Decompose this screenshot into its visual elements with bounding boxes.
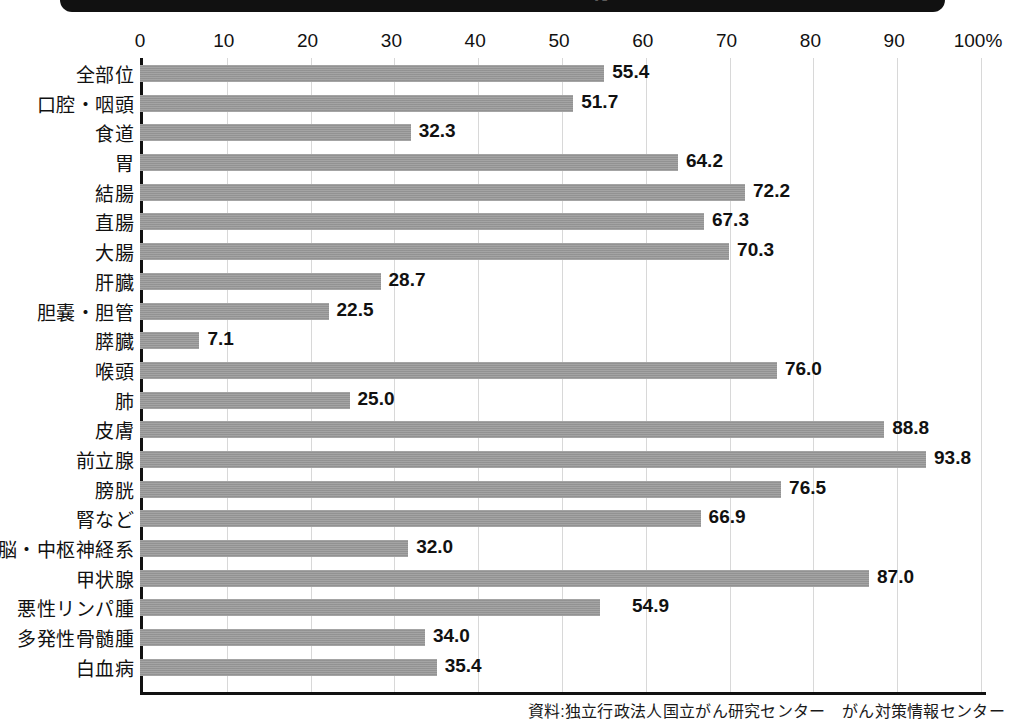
bar-value-12: 88.8 [892,417,929,439]
bar-20 [140,659,437,676]
bar-6 [140,243,729,260]
bar-row: 直腸67.3 [0,206,1013,236]
bar-7 [140,273,381,290]
bar-row: 膵臓7.1 [0,325,1013,355]
bar-value-0: 55.4 [612,61,649,83]
bar-row: 食道32.3 [0,117,1013,147]
x-axis-tick-2: 20 [297,30,318,52]
x-axis-tick-1: 10 [213,30,234,52]
bar-19 [140,629,425,646]
bar-rows: 全部位55.4口腔・咽頭51.7食道32.3胃64.2結腸72.2直腸67.3大… [0,58,1013,681]
bar-row: 口腔・咽頭51.7 [0,88,1013,118]
category-label-4: 結腸 [95,179,134,206]
bar-value-5: 67.3 [712,209,749,231]
bar-13 [140,451,926,468]
bar-12 [140,421,884,438]
category-label-19: 多発性骨髄腫 [17,624,134,651]
category-label-11: 肺 [115,387,135,414]
bar-10 [140,362,777,379]
bar-value-20: 35.4 [445,655,482,677]
bar-value-1: 51.7 [581,91,618,113]
bar-row: 結腸72.2 [0,177,1013,207]
category-label-6: 大腸 [95,238,134,265]
bar-2 [140,124,411,141]
bar-value-13: 93.8 [934,447,971,469]
bar-row: 脳・中枢神経系32.0 [0,533,1013,563]
x-axis-tick-labels: 0102030405060708090100% [0,30,1013,54]
bar-8 [140,303,329,320]
bar-9 [140,332,199,349]
bar-14 [140,481,781,498]
bar-17 [140,570,869,587]
x-axis-tick-9: 90 [884,30,905,52]
category-label-2: 食道 [95,119,134,146]
bar-row: 腎など66.9 [0,503,1013,533]
bar-value-11: 25.0 [358,388,395,410]
bar-row: 多発性骨髄腫34.0 [0,622,1013,652]
bar-row: 皮膚88.8 [0,414,1013,444]
bar-4 [140,184,745,201]
bar-row: 肺25.0 [0,385,1013,415]
bar-value-8: 22.5 [337,299,374,321]
chart-title-banner: 部位別 5年相対生存率 [60,0,945,12]
x-axis-tick-8: 80 [800,30,821,52]
bar-value-14: 76.5 [789,477,826,499]
chart-page: 部位別 5年相対生存率 0102030405060708090100% 全部位5… [0,0,1013,724]
bar-row: 胃64.2 [0,147,1013,177]
bar-row: 全部位55.4 [0,58,1013,88]
bar-value-10: 76.0 [785,358,822,380]
bar-row: 喉頭76.0 [0,355,1013,385]
bar-row: 甲状腺87.0 [0,563,1013,593]
bar-value-2: 32.3 [419,120,456,142]
bar-15 [140,510,701,527]
x-axis-tick-10: 100% [954,30,1003,52]
category-label-10: 喉頭 [95,357,134,384]
bar-value-18: 54.9 [632,595,669,617]
bar-value-16: 32.0 [416,536,453,558]
bar-value-4: 72.2 [753,180,790,202]
bar-row: 膀胱76.5 [0,474,1013,504]
x-axis-tick-3: 30 [381,30,402,52]
bar-row: 悪性リンパ腫54.9 [0,592,1013,622]
category-label-5: 直腸 [95,208,134,235]
category-label-18: 悪性リンパ腫 [17,594,134,621]
category-label-3: 胃 [115,149,135,176]
category-label-8: 胆嚢・胆管 [37,298,135,325]
category-label-0: 全部位 [76,60,135,87]
bar-value-3: 64.2 [686,150,723,172]
bar-value-7: 28.7 [389,269,426,291]
bar-value-9: 7.1 [207,328,233,350]
category-label-1: 口腔・咽頭 [37,90,135,117]
x-axis-tick-0: 0 [135,30,146,52]
bar-0 [140,65,604,82]
bar-row: 肝臓28.7 [0,266,1013,296]
bar-row: 大腸70.3 [0,236,1013,266]
bar-row: 白血病35.4 [0,652,1013,682]
page-title: 部位別 5年相対生存率 [360,0,646,2]
category-label-20: 白血病 [76,654,135,681]
bar-row: 前立腺93.8 [0,444,1013,474]
bar-value-15: 66.9 [709,506,746,528]
bar-11 [140,392,350,409]
category-label-17: 甲状腺 [76,565,135,592]
bar-value-19: 34.0 [433,625,470,647]
category-label-12: 皮膚 [95,416,134,443]
bar-value-6: 70.3 [737,239,774,261]
category-label-16: 脳・中枢神経系 [0,535,134,562]
source-note: 資料:独立行政法人国立がん研究センター がん対策情報センター [528,698,1005,722]
category-label-7: 肝臓 [95,268,134,295]
bar-row: 胆嚢・胆管22.5 [0,296,1013,326]
bar-18 [140,599,600,616]
category-label-9: 膵臓 [95,327,134,354]
x-axis-tick-6: 60 [632,30,653,52]
category-label-15: 腎など [76,505,135,532]
x-axis-tick-7: 70 [716,30,737,52]
category-label-14: 膀胱 [95,476,134,503]
x-axis-tick-4: 40 [465,30,486,52]
category-label-13: 前立腺 [76,446,135,473]
x-axis-tick-5: 50 [548,30,569,52]
bar-value-17: 87.0 [877,566,914,588]
bar-1 [140,95,573,112]
bar-3 [140,154,678,171]
bar-16 [140,540,408,557]
